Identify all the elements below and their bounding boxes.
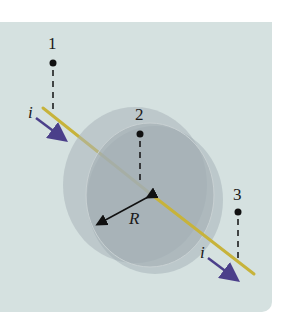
- current-label-in: i: [28, 104, 33, 121]
- current-label-out: i: [200, 244, 205, 261]
- point-2-label: 2: [135, 106, 144, 123]
- diagram-canvas: [0, 0, 297, 316]
- current-arrow-out: [208, 258, 236, 279]
- disk-front-face: [86, 123, 214, 267]
- point-3-dot: [235, 209, 242, 216]
- point-1-label: 1: [48, 35, 57, 52]
- point-2-dot: [137, 131, 144, 138]
- radius-label: R: [129, 210, 139, 227]
- point-3-label: 3: [233, 186, 242, 203]
- point-1-dot: [50, 60, 57, 67]
- disk: [63, 107, 223, 274]
